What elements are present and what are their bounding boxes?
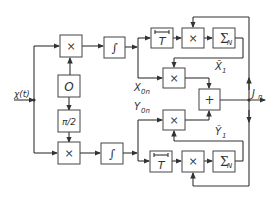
multiplier-top: × [60, 35, 82, 57]
svg-text:+: + [204, 93, 214, 107]
accumulator-top: Σ N [213, 28, 235, 48]
svg-text:N: N [227, 39, 233, 47]
svg-text:J: J [250, 88, 255, 99]
input-label: χ(t) [13, 89, 30, 99]
y1-label: Ỹ 1 [215, 125, 226, 140]
svg-text:1: 1 [222, 132, 226, 140]
delay-bottom: T [150, 151, 172, 172]
svg-text:0n: 0n [141, 107, 150, 115]
svg-text:×: × [64, 147, 73, 160]
input-wires [14, 46, 137, 153]
x0n-label: X 0n [133, 82, 150, 96]
multiplier-delay-top: × [182, 28, 204, 48]
adder-block: + [199, 89, 220, 110]
svg-text:N: N [227, 162, 233, 170]
x1-label: X̃ 1 [214, 60, 226, 75]
svg-text:Ỹ: Ỹ [215, 125, 222, 137]
svg-text:1: 1 [222, 67, 226, 75]
svg-text:π/2: π/2 [62, 117, 76, 127]
phase-shift-block: π/2 [58, 110, 80, 132]
oscillator-block: O [58, 75, 80, 97]
multiplier-delay-bottom: × [182, 151, 204, 172]
integrator-bottom: ∫ [101, 143, 123, 164]
block-diagram: × ∫ O π/2 × ∫ T × Σ N × + [0, 0, 275, 200]
svg-text:∫: ∫ [111, 41, 118, 55]
y0n-label: Y 0n [134, 101, 150, 115]
svg-text:n: n [258, 93, 262, 101]
svg-text:O: O [64, 80, 73, 94]
svg-text:×: × [188, 155, 197, 168]
y0n-bus [138, 111, 249, 186]
multiplier-mid-top: × [163, 68, 185, 88]
svg-text:∫: ∫ [109, 147, 116, 161]
svg-text:0n: 0n [141, 88, 150, 96]
multiplier-mid-bottom: × [163, 110, 185, 130]
svg-text:×: × [188, 32, 197, 45]
delay-top: T [151, 28, 173, 48]
output-label: J n [250, 88, 262, 101]
integrator-top: ∫ [104, 37, 125, 58]
svg-text:×: × [169, 114, 178, 127]
multiplier-bottom: × [58, 142, 80, 164]
svg-text:×: × [169, 72, 178, 85]
svg-text:Y: Y [134, 101, 141, 112]
accumulator-bottom: Σ N [213, 151, 235, 172]
svg-text:×: × [66, 40, 75, 53]
